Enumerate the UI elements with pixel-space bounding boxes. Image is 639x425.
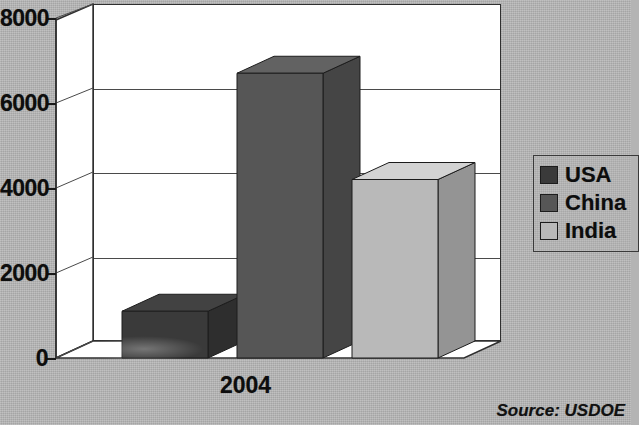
legend-label-india: India [565,218,616,244]
bar-front-india[interactable] [352,180,438,359]
legend-item-india[interactable]: India [540,217,634,245]
bar-front-china[interactable] [237,73,323,358]
legend-item-usa[interactable]: USA [540,161,634,189]
bar-front-usa[interactable] [122,311,208,358]
legend-swatch-india [540,222,558,240]
source-note: Source: USDOE [497,401,625,421]
legend-swatch-usa [540,166,558,184]
legend-swatch-china [540,194,558,212]
chart-legend: USA China India [533,155,639,252]
legend-label-usa: USA [565,162,611,188]
legend-label-china: China [565,190,626,216]
x-axis-category-2004: 2004 [220,372,271,399]
bar-side-india[interactable] [438,163,475,359]
legend-item-china[interactable]: China [540,189,634,217]
